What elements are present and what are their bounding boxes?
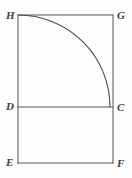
vertex-label-H: H xyxy=(6,10,15,21)
vertex-label-G: G xyxy=(117,10,125,21)
vertex-label-E: E xyxy=(6,157,13,168)
arc-H-to-C xyxy=(18,15,110,107)
vertex-label-F: F xyxy=(117,158,124,169)
vertex-label-D: D xyxy=(6,101,14,112)
figure-canvas xyxy=(0,0,132,178)
geometry-figure: H G D C E F xyxy=(0,0,132,178)
vertex-label-C: C xyxy=(117,102,124,113)
